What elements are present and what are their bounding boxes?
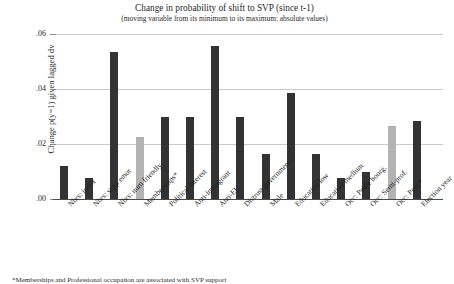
- y-axis-tick-label: .00: [22, 195, 46, 203]
- chart-footnote: *Memberships and Professional occupation…: [12, 276, 442, 284]
- x-axis-labels: Nbrs: indexNbrs: supp emotNbrs: num frie…: [56, 200, 446, 284]
- y-axis-tick-label: .06: [22, 30, 46, 38]
- chart-title: Change in probability of shift to SVP (s…: [0, 3, 449, 14]
- y-axis-tick-label: .02: [22, 140, 46, 148]
- y-axis-tick-label: .04: [22, 85, 46, 93]
- y-axis-title: Change p(y=1) given lagged dv: [46, 0, 56, 199]
- bar: [60, 166, 68, 199]
- chart-title-block: Change in probability of shift to SVP (s…: [0, 3, 449, 24]
- plot-area: Change p(y=1) given lagged dv .00.02.04.…: [56, 34, 443, 199]
- bar: [287, 93, 295, 199]
- chart-subtitle: (moving variable from its minimum to its…: [0, 14, 449, 24]
- bar-series: [56, 34, 443, 199]
